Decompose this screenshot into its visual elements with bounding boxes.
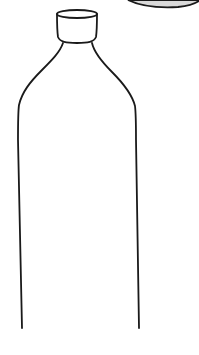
bottle-body bbox=[18, 43, 139, 328]
bottle-illustration bbox=[0, 0, 199, 355]
bottle-cap bbox=[57, 10, 97, 43]
corner-shape bbox=[128, 0, 199, 7]
cap-top-rim bbox=[57, 10, 97, 18]
